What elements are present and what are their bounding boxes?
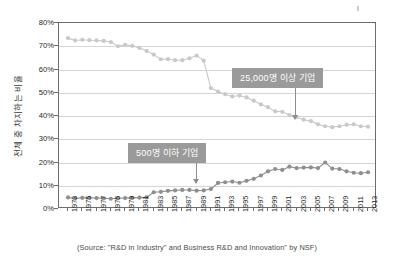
- x-axis-tick-label: 1989: [199, 196, 208, 212]
- x-axis-tick-mark: [267, 208, 268, 211]
- data-point: [173, 188, 177, 192]
- x-axis-tick-label: 1983: [156, 196, 165, 212]
- data-point: [259, 173, 263, 177]
- x-axis-tick-mark: [196, 208, 197, 211]
- data-point: [330, 166, 334, 170]
- x-axis-tick-label: 1985: [170, 196, 179, 212]
- data-point: [344, 123, 348, 127]
- x-axis-tick-label: 1993: [227, 196, 236, 212]
- x-axis-tick-mark: [367, 208, 368, 211]
- data-point: [166, 57, 170, 61]
- data-point: [159, 57, 163, 61]
- data-point: [230, 179, 234, 183]
- data-point: [159, 190, 163, 194]
- data-point: [309, 165, 313, 169]
- data-point: [302, 166, 306, 170]
- data-point: [152, 190, 156, 194]
- x-axis-tick-label: 1981: [141, 196, 150, 212]
- callout-small-firms-arrow: [193, 179, 199, 184]
- data-point: [123, 43, 127, 47]
- data-point: [202, 59, 206, 63]
- data-point: [116, 44, 120, 48]
- data-point: [352, 122, 356, 126]
- data-point: [302, 118, 306, 122]
- callout-large-firms-leader: [295, 88, 296, 115]
- data-point: [316, 122, 320, 126]
- data-point: [366, 170, 370, 174]
- data-point: [223, 180, 227, 184]
- data-point: [352, 171, 356, 175]
- y-axis-tick-mark: [54, 208, 58, 209]
- x-axis-tick-mark: [124, 208, 125, 211]
- x-axis-tick-mark: [253, 208, 254, 211]
- y-axis-tick-label: 50%: [22, 87, 54, 96]
- x-axis-tick-mark: [324, 208, 325, 211]
- data-point: [102, 39, 106, 43]
- x-axis-tick-mark: [181, 208, 182, 211]
- data-point: [252, 177, 256, 181]
- series-line-small-firms: [68, 163, 368, 199]
- x-axis-tick-label: 2009: [341, 196, 350, 212]
- data-point: [337, 167, 341, 171]
- x-axis-tick-mark: [81, 208, 82, 211]
- data-point: [309, 119, 313, 123]
- data-point: [273, 167, 277, 171]
- series-layer: [59, 23, 377, 209]
- data-point: [209, 86, 213, 90]
- x-axis-tick-label: 2003: [299, 196, 308, 212]
- x-axis-tick-mark: [210, 208, 211, 211]
- data-point: [194, 53, 198, 57]
- data-point: [359, 171, 363, 175]
- x-axis-tick-label: 2011: [356, 196, 365, 212]
- data-point: [187, 56, 191, 60]
- x-axis-tick-mark: [167, 208, 168, 211]
- data-point: [66, 36, 70, 40]
- data-point: [344, 169, 348, 173]
- y-axis-tick-label: 40%: [22, 111, 54, 120]
- x-axis-tick-mark: [296, 208, 297, 211]
- x-axis-tick-label: 1995: [241, 196, 250, 212]
- data-point: [180, 58, 184, 62]
- x-axis-tick-mark: [310, 208, 311, 211]
- x-axis-tick-mark: [224, 208, 225, 211]
- x-axis-tick-mark: [96, 208, 97, 211]
- data-point: [187, 188, 191, 192]
- x-axis-tick-label: 1987: [184, 196, 193, 212]
- data-point: [237, 181, 241, 185]
- x-axis-tick-label: 1977: [99, 196, 108, 212]
- data-point: [202, 188, 206, 192]
- y-axis-tick-label: 30%: [22, 134, 54, 143]
- x-axis-tick-label: 1973: [70, 196, 79, 212]
- x-axis-tick-label: 1975: [84, 196, 93, 212]
- data-point: [337, 124, 341, 128]
- x-axis-tick-mark: [338, 208, 339, 211]
- x-axis-tick-label: 1979: [127, 196, 136, 212]
- data-point: [109, 40, 113, 44]
- data-point: [266, 105, 270, 109]
- callout-large-firms-arrow: [292, 115, 298, 120]
- callout-large-firms: 25,000명 이상 기업: [232, 68, 323, 88]
- data-point: [130, 44, 134, 48]
- data-point: [259, 102, 263, 106]
- data-point: [94, 38, 98, 42]
- data-point: [294, 166, 298, 170]
- data-point: [280, 110, 284, 114]
- data-point: [144, 49, 148, 53]
- y-axis-tick-label: 60%: [22, 64, 54, 73]
- data-point: [266, 169, 270, 173]
- x-axis-tick-label: 1975: [113, 196, 122, 212]
- y-axis-tick-label: 80%: [22, 18, 54, 27]
- data-point: [216, 89, 220, 93]
- callout-small-firms: 500명 이하 기업: [128, 143, 206, 163]
- data-point: [80, 38, 84, 42]
- data-point: [73, 38, 77, 42]
- data-point: [173, 58, 177, 62]
- data-point: [316, 166, 320, 170]
- data-point: [244, 95, 248, 99]
- source-note: (Source: "R&D in Industry" and Business …: [0, 243, 394, 252]
- data-point: [216, 181, 220, 185]
- x-axis-tick-mark: [238, 208, 239, 211]
- data-point: [323, 160, 327, 164]
- x-axis-tick-label: 2007: [327, 196, 336, 212]
- data-point: [237, 93, 241, 97]
